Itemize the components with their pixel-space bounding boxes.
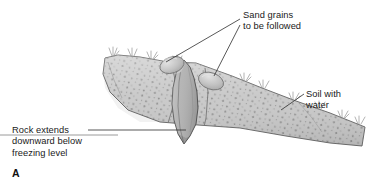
leader-sand-grain-left: [166, 19, 240, 62]
leader-sand-grain-right: [214, 25, 240, 76]
label-rock-extends: Rock extends downward below freezing lev…: [12, 125, 82, 159]
panel-letter: A: [12, 167, 20, 179]
label-sand-grains: Sand grains to be followed: [243, 10, 301, 33]
figure-panel-a: Sand grains to be followed Soil with wat…: [0, 0, 370, 193]
label-soil-with-water: Soil with water: [306, 89, 341, 112]
